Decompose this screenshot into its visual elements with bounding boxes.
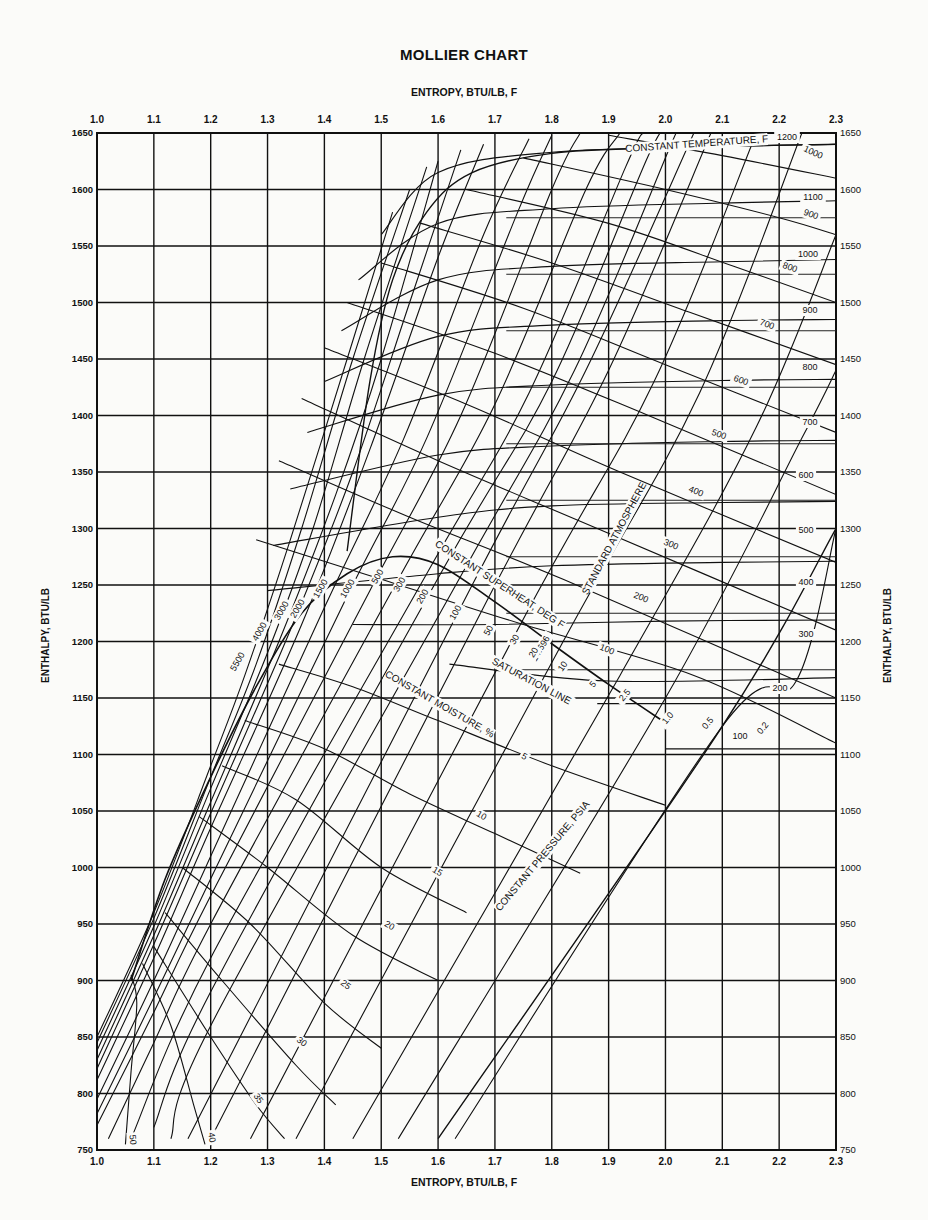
curve-label: 1100 [800, 192, 826, 203]
x-tick-label-bottom: 1.8 [545, 1156, 559, 1167]
x-tick-label-bottom: 1.3 [261, 1156, 275, 1167]
x-tick-label-bottom: 2.1 [715, 1156, 729, 1167]
curve-label: 0.5 [697, 712, 718, 735]
svg-text:50: 50 [128, 1134, 139, 1145]
constant-moisture-pct-curve [199, 817, 438, 981]
curve-label: 400 [796, 577, 816, 588]
curve-label: CONSTANT MOISTURE, % [383, 668, 497, 740]
x-tick-label-bottom: 1.0 [90, 1156, 104, 1167]
curve-label: 800 [778, 259, 801, 276]
curve-label: 0.2 [752, 717, 773, 740]
y-tick-label-left: 1100 [72, 749, 93, 760]
y-tick-label-left: 1300 [72, 523, 93, 534]
constant-pressure-psia-curve [188, 133, 694, 1139]
y-tick-label-left: 1550 [72, 240, 93, 251]
curve-label: CONSTANT PRESSURE, PSIA [492, 798, 592, 914]
y-tick-label-right: 1100 [840, 749, 860, 760]
curve-label: 900 [799, 206, 822, 223]
constant-superheat-degF-curve [421, 223, 836, 364]
y-tick-label-right: 1300 [840, 523, 861, 534]
constant-pressure-psia-curve [97, 133, 580, 1125]
svg-text:200: 200 [772, 683, 787, 693]
x-tick-label-bottom: 2.2 [772, 1156, 786, 1167]
y-tick-label-right: 1650 [840, 127, 861, 138]
x-tick-label-bottom: 2.0 [659, 1156, 673, 1167]
curve-label: 200 [770, 683, 790, 694]
y-tick-label-right: 1600 [840, 184, 861, 195]
y-tick-label-right: 850 [840, 1031, 856, 1042]
svg-text:900: 900 [802, 305, 817, 315]
curve-label: 100 [596, 641, 619, 659]
curve-label: 300 [660, 536, 683, 554]
y-tick-label-left: 1500 [72, 297, 93, 308]
curve-label: 400 [685, 483, 708, 501]
constant-moisture-pct-curve [245, 721, 580, 874]
x-tick-label-top: 1.2 [204, 114, 218, 125]
y-tick-label-right: 800 [840, 1088, 856, 1099]
y-tick-label-left: 1650 [72, 127, 93, 138]
y-tick-label-left: 750 [77, 1144, 93, 1155]
y-tick-label-left: 1200 [72, 636, 93, 647]
svg-text:40: 40 [206, 1132, 218, 1144]
y-tick-label-left: 1350 [72, 466, 93, 477]
y-tick-label-right: 750 [840, 1144, 856, 1155]
curve-label: 20 [380, 917, 398, 934]
plot-area: 1.01.01.11.11.21.21.31.31.41.41.51.51.61… [0, 0, 928, 1220]
y-tick-label-left: 1450 [72, 353, 93, 364]
y-tick-label-right: 1050 [840, 805, 861, 816]
curve-label: 35 [249, 1089, 266, 1107]
curve-label: 1000 [799, 142, 827, 163]
constant-moisture-pct-curve [125, 975, 136, 1145]
curve-label: 700 [800, 417, 820, 428]
x-tick-label-top: 1.4 [317, 114, 331, 125]
curve-label: 30 [292, 1033, 310, 1051]
svg-text:700: 700 [802, 417, 817, 427]
curve-label: 200 [630, 589, 653, 607]
curve-label: STANDARD ATMOSPHERE [580, 480, 650, 597]
x-tick-label-bottom: 1.5 [374, 1156, 388, 1167]
curve-label: 10 [554, 657, 571, 675]
svg-text:STANDARD ATMOSPHERE: STANDARD ATMOSPHERE [580, 480, 649, 596]
svg-text:1100: 1100 [803, 192, 822, 202]
y-tick-label-left: 950 [77, 918, 93, 929]
svg-text:1200: 1200 [777, 132, 797, 142]
curve-label: 500 [796, 525, 816, 536]
x-tick-label-top: 1.8 [545, 114, 559, 125]
x-tick-label-bottom: 1.9 [602, 1156, 616, 1167]
y-tick-label-right: 1350 [840, 466, 861, 477]
constant-pressure-psia-curve [154, 130, 666, 1127]
curve-label: 40 [205, 1129, 218, 1145]
x-tick-label-top: 2.0 [659, 114, 673, 125]
y-tick-label-left: 1600 [72, 184, 93, 195]
y-tick-label-left: 1250 [72, 579, 93, 590]
curve-label: 600 [729, 372, 752, 389]
x-tick-label-top: 1.7 [488, 114, 502, 125]
x-tick-label-top: 1.0 [90, 114, 104, 125]
x-tick-label-bottom: 1.1 [147, 1156, 161, 1167]
svg-text:800: 800 [781, 260, 799, 275]
curve-label: 800 [800, 362, 820, 373]
x-tick-label-top: 1.9 [602, 114, 616, 125]
constant-temperature-F-curve [290, 440, 836, 489]
y-tick-label-right: 1250 [840, 579, 861, 590]
y-tick-label-right: 900 [840, 975, 856, 986]
constant-pressure-psia-curve [97, 167, 427, 1051]
svg-text:400: 400 [798, 577, 813, 587]
y-tick-label-right: 1200 [840, 636, 861, 647]
x-tick-label-top: 1.5 [374, 114, 388, 125]
curve-label: 50 [126, 1132, 138, 1148]
y-tick-label-right: 1150 [840, 692, 860, 703]
svg-text:800: 800 [802, 362, 817, 372]
y-tick-label-right: 1450 [840, 353, 861, 364]
y-tick-label-right: 950 [840, 918, 856, 929]
svg-text:500: 500 [798, 525, 813, 535]
svg-text:500: 500 [710, 427, 728, 442]
x-tick-label-top: 2.3 [829, 114, 843, 125]
constant-superheat-degF-curve [279, 461, 836, 698]
curve-label: 300 [796, 629, 816, 640]
svg-text:700: 700 [758, 317, 776, 332]
x-tick-label-top: 1.6 [431, 114, 445, 125]
curve-label: 100 [446, 601, 466, 624]
curve-label: 900 [800, 305, 820, 316]
y-tick-label-right: 1550 [840, 240, 861, 251]
